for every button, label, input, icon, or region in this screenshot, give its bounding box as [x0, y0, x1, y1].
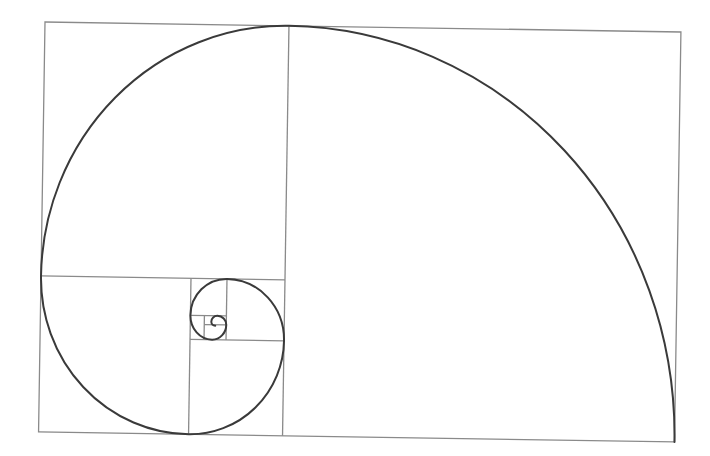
- divider-horizontal-left: [41, 276, 285, 280]
- golden-spiral: [39, 22, 681, 442]
- golden-spiral-diagram: [0, 0, 710, 456]
- divider-vertical-small: [189, 278, 191, 434]
- divider-vertical-main: [283, 26, 289, 436]
- outer-frame: [39, 22, 681, 442]
